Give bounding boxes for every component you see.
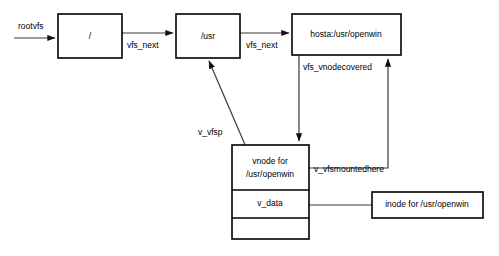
vfs-next-edge-label-2: vfs_next: [246, 40, 278, 50]
openwin-vfs-label: hosta:/usr/openwin: [310, 29, 382, 39]
vnode-row1-line1: vnode for: [252, 156, 288, 166]
vfs-vnodecovered-edge-label: vfs_vnodecovered: [303, 62, 372, 72]
v-vfsp-edge-label: v_vfsp: [198, 127, 223, 137]
vfs-next-edge-label-1: vfs_next: [127, 40, 159, 50]
vfs-vnode-diagram: / /usr hosta:/usr/openwin vnode for /usr…: [0, 0, 499, 256]
usr-vfs-label: /usr: [201, 31, 215, 41]
v-vfsmountedhere-arrow: [309, 59, 388, 168]
vnode-row2-v-data: v_data: [257, 198, 283, 208]
inode-label: inode for /usr/openwin: [385, 199, 469, 209]
vnode-row1-line2: /usr/openwin: [246, 169, 294, 179]
rootvfs-edge-label: rootvfs: [18, 21, 44, 31]
v-vfsmountedhere-edge-label: v_vfsmountedhere: [314, 164, 384, 174]
diagram-canvas: / /usr hosta:/usr/openwin vnode for /usr…: [0, 0, 499, 256]
